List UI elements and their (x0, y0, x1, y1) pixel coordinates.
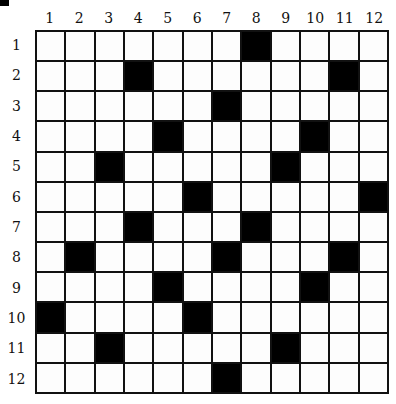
white-cell[interactable] (37, 92, 64, 120)
white-cell[interactable] (96, 32, 123, 60)
white-cell[interactable] (242, 273, 269, 301)
white-cell[interactable] (213, 334, 240, 362)
white-cell[interactable] (37, 364, 64, 392)
white-cell[interactable] (330, 183, 357, 211)
white-cell[interactable] (37, 32, 64, 60)
white-cell[interactable] (125, 303, 152, 331)
white-cell[interactable] (330, 303, 357, 331)
white-cell[interactable] (154, 153, 181, 181)
white-cell[interactable] (360, 153, 387, 181)
white-cell[interactable] (272, 122, 299, 150)
white-cell[interactable] (125, 243, 152, 271)
white-cell[interactable] (242, 334, 269, 362)
white-cell[interactable] (154, 183, 181, 211)
white-cell[interactable] (66, 153, 93, 181)
white-cell[interactable] (213, 122, 240, 150)
white-cell[interactable] (213, 303, 240, 331)
white-cell[interactable] (184, 32, 211, 60)
white-cell[interactable] (330, 364, 357, 392)
white-cell[interactable] (96, 62, 123, 90)
white-cell[interactable] (125, 273, 152, 301)
white-cell[interactable] (272, 303, 299, 331)
white-cell[interactable] (184, 153, 211, 181)
white-cell[interactable] (37, 153, 64, 181)
white-cell[interactable] (213, 32, 240, 60)
white-cell[interactable] (330, 92, 357, 120)
white-cell[interactable] (184, 364, 211, 392)
white-cell[interactable] (96, 122, 123, 150)
white-cell[interactable] (242, 364, 269, 392)
white-cell[interactable] (213, 153, 240, 181)
white-cell[interactable] (213, 183, 240, 211)
white-cell[interactable] (330, 273, 357, 301)
white-cell[interactable] (301, 303, 328, 331)
white-cell[interactable] (125, 334, 152, 362)
white-cell[interactable] (272, 273, 299, 301)
white-cell[interactable] (213, 62, 240, 90)
white-cell[interactable] (301, 213, 328, 241)
white-cell[interactable] (184, 92, 211, 120)
white-cell[interactable] (360, 62, 387, 90)
white-cell[interactable] (330, 153, 357, 181)
white-cell[interactable] (360, 273, 387, 301)
white-cell[interactable] (301, 62, 328, 90)
white-cell[interactable] (301, 243, 328, 271)
white-cell[interactable] (125, 92, 152, 120)
white-cell[interactable] (154, 303, 181, 331)
white-cell[interactable] (360, 243, 387, 271)
white-cell[interactable] (184, 62, 211, 90)
white-cell[interactable] (154, 243, 181, 271)
white-cell[interactable] (154, 334, 181, 362)
white-cell[interactable] (154, 213, 181, 241)
white-cell[interactable] (66, 213, 93, 241)
white-cell[interactable] (66, 92, 93, 120)
white-cell[interactable] (125, 32, 152, 60)
white-cell[interactable] (242, 243, 269, 271)
white-cell[interactable] (272, 364, 299, 392)
white-cell[interactable] (66, 62, 93, 90)
white-cell[interactable] (184, 213, 211, 241)
white-cell[interactable] (184, 122, 211, 150)
white-cell[interactable] (37, 273, 64, 301)
white-cell[interactable] (272, 243, 299, 271)
white-cell[interactable] (66, 303, 93, 331)
white-cell[interactable] (37, 122, 64, 150)
white-cell[interactable] (272, 213, 299, 241)
white-cell[interactable] (66, 273, 93, 301)
white-cell[interactable] (360, 92, 387, 120)
white-cell[interactable] (66, 32, 93, 60)
white-cell[interactable] (213, 213, 240, 241)
white-cell[interactable] (330, 334, 357, 362)
white-cell[interactable] (125, 364, 152, 392)
white-cell[interactable] (360, 122, 387, 150)
white-cell[interactable] (96, 364, 123, 392)
white-cell[interactable] (184, 273, 211, 301)
white-cell[interactable] (96, 183, 123, 211)
white-cell[interactable] (242, 303, 269, 331)
white-cell[interactable] (272, 32, 299, 60)
white-cell[interactable] (125, 183, 152, 211)
white-cell[interactable] (96, 213, 123, 241)
white-cell[interactable] (242, 122, 269, 150)
white-cell[interactable] (272, 62, 299, 90)
white-cell[interactable] (330, 122, 357, 150)
white-cell[interactable] (360, 213, 387, 241)
white-cell[interactable] (154, 364, 181, 392)
white-cell[interactable] (360, 303, 387, 331)
white-cell[interactable] (154, 92, 181, 120)
white-cell[interactable] (301, 32, 328, 60)
white-cell[interactable] (96, 243, 123, 271)
white-cell[interactable] (37, 243, 64, 271)
white-cell[interactable] (184, 243, 211, 271)
white-cell[interactable] (37, 62, 64, 90)
white-cell[interactable] (301, 364, 328, 392)
white-cell[interactable] (96, 92, 123, 120)
white-cell[interactable] (184, 334, 211, 362)
white-cell[interactable] (125, 122, 152, 150)
white-cell[interactable] (242, 153, 269, 181)
white-cell[interactable] (154, 62, 181, 90)
white-cell[interactable] (242, 183, 269, 211)
white-cell[interactable] (213, 273, 240, 301)
white-cell[interactable] (272, 92, 299, 120)
white-cell[interactable] (66, 334, 93, 362)
